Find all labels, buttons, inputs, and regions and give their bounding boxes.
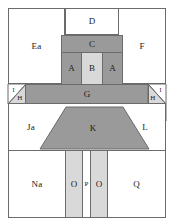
region-label-Q: Q bbox=[133, 180, 140, 189]
region-label-O-right: O bbox=[96, 180, 103, 189]
region-O-left: O bbox=[65, 150, 83, 218]
diagram-frame: Ea D F C A B A bbox=[8, 8, 164, 216]
region-O-right: O bbox=[90, 150, 108, 218]
region-label-Na: Na bbox=[32, 180, 43, 189]
region-Na: Na bbox=[8, 150, 66, 218]
region-label-P: P bbox=[84, 181, 88, 188]
figure-canvas: Ea D F C A B A bbox=[0, 0, 172, 224]
region-label-O-left: O bbox=[71, 180, 78, 189]
region-Q: Q bbox=[107, 150, 166, 218]
